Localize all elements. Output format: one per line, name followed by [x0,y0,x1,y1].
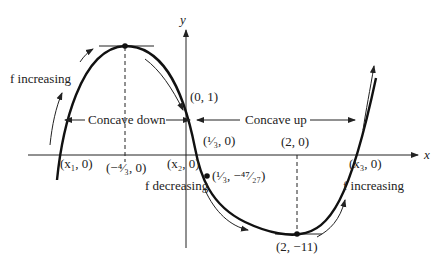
increasing-arrow-upper-left [80,49,93,62]
point-x2-label: (x₂, 0) [167,156,200,171]
increasing-arrow-lower-left [50,93,62,145]
y-axis-label: y [178,12,186,27]
concave-down-label: Concave down [88,112,166,127]
local-max-point [122,43,128,49]
f-increasing-left-label: f increasing [10,71,72,86]
x-axis-label: x [423,147,430,162]
point-inflection-label: (¹⁄₃, −⁴⁷⁄₂₇) [212,168,265,183]
point-y-intercept-label: (0, 1) [190,89,218,104]
point-local-min-x-label: (2, 0) [281,134,309,149]
point-x3-label: (x₃, 0) [349,156,382,171]
f-decreasing-label: f decreasing [145,178,209,193]
point-local-min-label: (2, −11) [276,239,318,254]
f-increasing-right-label: f increasing [343,178,405,193]
increasing-arrow-lower-right [317,200,345,237]
local-min-point [294,231,300,237]
cubic-function-diagram: x y Concave down Concave up f increasing… [0,0,439,270]
point-x1-label: (x₁, 0) [60,156,93,171]
point-local-max-x-label: (−⁴⁄₃, 0) [106,160,146,175]
point-inflection-x-label: (¹⁄₃, 0) [203,133,235,148]
concave-up-label: Concave up [245,112,307,127]
